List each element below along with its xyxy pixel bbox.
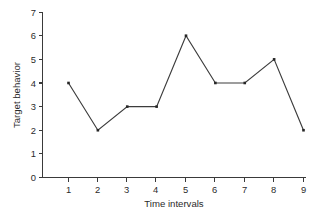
data-point-marker <box>185 34 188 37</box>
y-axis-title: Target behavior <box>11 61 22 128</box>
axes-group <box>43 12 306 178</box>
x-tick-label-3: 3 <box>124 184 129 195</box>
x-tick-label-9: 9 <box>301 184 306 195</box>
x-tick-label-8: 8 <box>271 184 276 195</box>
y-tick-label-0: 0 <box>31 172 36 183</box>
y-tick-label-3: 3 <box>31 101 36 112</box>
series-markers <box>67 34 305 131</box>
y-tick-label-7: 7 <box>31 7 36 18</box>
y-tick-marks <box>39 12 43 177</box>
data-point-marker <box>126 105 129 108</box>
data-series-target-behavior <box>67 34 305 131</box>
data-point-marker <box>97 129 100 132</box>
data-point-marker <box>67 82 70 85</box>
data-point-marker <box>243 82 246 85</box>
data-point-marker <box>155 105 158 108</box>
y-tick-label-5: 5 <box>31 54 36 65</box>
line-chart: 0 1 2 3 4 5 6 7 1 2 3 4 5 6 <box>0 0 325 217</box>
x-tick-label-5: 5 <box>183 184 188 195</box>
data-point-marker <box>214 82 217 85</box>
y-tick-label-1: 1 <box>31 148 36 159</box>
x-tick-label-7: 7 <box>242 184 247 195</box>
y-tick-labels: 0 1 2 3 4 5 6 7 <box>31 7 36 183</box>
y-tick-label-4: 4 <box>31 78 36 89</box>
x-tick-label-6: 6 <box>212 184 217 195</box>
series-line <box>69 36 304 131</box>
y-tick-label-6: 6 <box>31 30 36 41</box>
x-tick-labels: 1 2 3 4 5 6 7 8 9 <box>66 184 306 195</box>
x-tick-label-2: 2 <box>95 184 100 195</box>
chart-canvas: 0 1 2 3 4 5 6 7 1 2 3 4 5 6 <box>0 0 325 217</box>
x-tick-marks <box>69 178 304 183</box>
x-tick-label-4: 4 <box>153 184 158 195</box>
x-tick-label-1: 1 <box>66 184 71 195</box>
data-point-marker <box>302 129 305 132</box>
data-point-marker <box>273 58 276 61</box>
x-axis-title: Time intervals <box>144 198 204 209</box>
y-tick-label-2: 2 <box>31 125 36 136</box>
